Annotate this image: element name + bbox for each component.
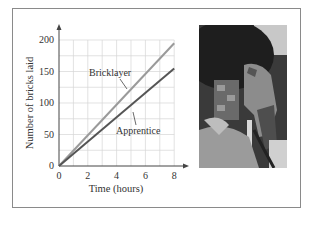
svg-text:50: 50 <box>44 129 54 140</box>
svg-text:150: 150 <box>39 66 54 77</box>
svg-text:200: 200 <box>39 34 54 45</box>
x-axis-title: Time (hours) <box>89 183 144 195</box>
svg-text:4: 4 <box>114 170 119 181</box>
y-axis-title: Number of bricks laid <box>24 56 35 149</box>
svg-text:100: 100 <box>39 97 54 108</box>
svg-text:2: 2 <box>85 170 90 181</box>
photo-illustration <box>199 25 287 168</box>
svg-text:0: 0 <box>49 160 54 171</box>
x-tick-labels: 0 2 4 6 8 <box>57 170 177 181</box>
bricklayer-photo <box>199 25 287 168</box>
y-tick-labels: 0 50 100 150 200 <box>39 34 54 171</box>
svg-text:6: 6 <box>143 170 148 181</box>
apprentice-label: Apprentice <box>116 125 161 136</box>
bricklayer-label: Bricklayer <box>89 67 132 78</box>
svg-text:8: 8 <box>172 170 177 181</box>
svg-text:0: 0 <box>57 170 62 181</box>
